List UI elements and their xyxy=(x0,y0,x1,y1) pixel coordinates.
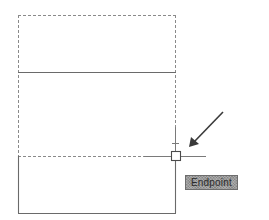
dashed-preview-rectangle xyxy=(18,15,176,157)
osnap-tooltip: Endpoint xyxy=(185,175,238,190)
pointer-arrow-icon xyxy=(189,112,223,147)
osnap-tooltip-label: Endpoint xyxy=(191,177,232,188)
endpoint-snap-square-icon xyxy=(172,152,181,161)
solid-base-rectangle[interactable] xyxy=(18,156,176,214)
crosshair-cursor xyxy=(144,127,206,157)
